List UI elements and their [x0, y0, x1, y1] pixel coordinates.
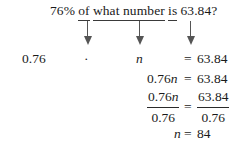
divide-left-fraction-bar	[147, 107, 179, 108]
simplified-left: 0.76n	[147, 71, 177, 87]
simplified-right: 63.84	[197, 71, 227, 87]
question-percent: 76%	[50, 3, 75, 19]
question-of-word: of	[78, 3, 89, 21]
question-unknown-phrase: what number	[93, 3, 165, 21]
simplified-equals: =	[184, 71, 192, 87]
divide-right-fraction-bar	[197, 107, 229, 108]
translation-variable: n	[136, 51, 143, 67]
translation-equals: =	[184, 51, 192, 67]
divide-right-numerator: 63.84	[197, 89, 229, 106]
divide-left-numerator-coefficient: 0.76	[148, 89, 172, 104]
simplified-coefficient: 0.76	[147, 71, 171, 86]
divide-left-numerator-variable: n	[172, 89, 179, 104]
solution-value: 84	[197, 126, 211, 142]
worked-example-figure: 76%ofwhat numberis63.84? 0.76 · n = 63.8…	[0, 0, 247, 146]
arrow-to-variable-icon	[135, 21, 144, 45]
divide-right-fraction: 63.84 0.76	[197, 89, 229, 125]
divide-left-denominator: 0.76	[147, 109, 179, 126]
arrow-to-equals-icon	[186, 21, 195, 45]
divide-left-fraction: 0.76n 0.76	[147, 89, 179, 125]
translation-result: 63.84	[197, 51, 227, 67]
simplified-variable: n	[171, 71, 178, 86]
divide-right-denominator: 0.76	[197, 109, 229, 126]
divide-equals: =	[184, 99, 192, 115]
divide-left-numerator: 0.76n	[147, 89, 179, 106]
solution-equals: =	[184, 126, 192, 142]
question-line: 76%ofwhat numberis63.84?	[50, 3, 217, 21]
question-value: 63.84?	[180, 3, 217, 19]
arrow-to-multiply-icon	[83, 21, 92, 45]
solution-variable: n	[174, 126, 181, 142]
translation-operator: ·	[84, 51, 89, 67]
question-is-word: is	[168, 3, 177, 21]
translation-decimal: 0.76	[22, 51, 46, 67]
